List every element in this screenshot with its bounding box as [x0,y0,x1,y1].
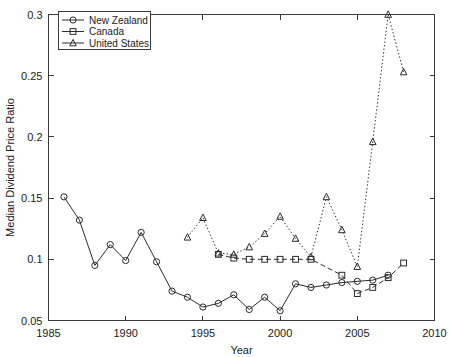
data-point [200,214,207,220]
x-axis-title: Year [230,344,253,356]
data-point [369,138,376,144]
series-united-states [184,11,407,270]
series-canada [215,252,406,297]
chart-legend: New ZealandCanadaUnited States [58,11,150,49]
data-point [246,243,253,249]
x-tick-label: 2010 [422,327,446,339]
chart-axes: 1985199019952000200520100.050.10.150.20.… [21,9,447,339]
line-chart: 1985199019952000200520100.050.10.150.20.… [0,0,450,357]
legend-label: United States [89,38,149,49]
y-tick-label: 0.05 [21,315,42,327]
x-tick-label: 1995 [191,327,215,339]
data-point [261,230,268,236]
data-point [61,194,67,200]
x-tick-label: 2005 [345,327,369,339]
legend-label: Canada [89,26,124,37]
chart-series [61,11,407,314]
legend-label: New Zealand [89,15,148,26]
series-new-zealand [61,194,391,314]
plot-frame [49,15,435,321]
data-point [277,213,284,219]
chart-figure: 1985199019952000200520100.050.10.150.20.… [0,0,450,357]
y-tick-label: 0.3 [27,9,42,21]
data-point [215,250,222,256]
x-tick-label: 2000 [268,327,292,339]
y-axis-title: Median Dividend Price Ratio [4,98,16,237]
y-tick-label: 0.25 [21,70,42,82]
x-tick-label: 1985 [36,327,60,339]
y-tick-label: 0.2 [27,131,42,143]
x-tick-label: 1990 [113,327,137,339]
y-tick-label: 0.15 [21,192,42,204]
series-line-0 [64,197,388,311]
y-tick-label: 0.1 [27,253,42,265]
